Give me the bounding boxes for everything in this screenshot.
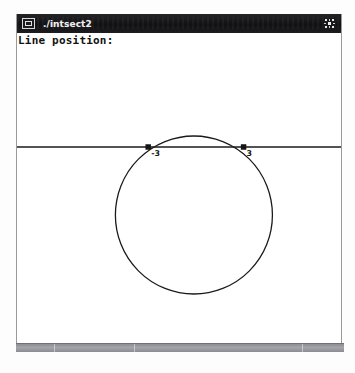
intersection-label-left: -3 [151, 149, 160, 158]
statusbar-divider [54, 344, 55, 352]
geometry-figure: -3 3 [17, 33, 341, 342]
window-title: ./intsect2 [43, 19, 92, 29]
drawing-canvas[interactable]: Line position: -3 3 [17, 33, 341, 342]
window-titlebar[interactable]: ./intsect2 [17, 14, 341, 33]
circle-shape [115, 136, 272, 294]
statusbar-divider [302, 344, 303, 352]
close-icon[interactable] [323, 18, 336, 30]
window-restore-icon[interactable] [22, 18, 35, 29]
intersection-label-right: 3 [247, 149, 253, 158]
intersection-marker-right[interactable] [241, 144, 246, 150]
window-restore-glyph [25, 21, 32, 26]
status-bar [16, 343, 344, 352]
page-background: ./intsect2 Line position: [0, 0, 355, 373]
intersection-marker-left[interactable] [145, 144, 150, 150]
application-window: ./intsect2 Line position: [16, 14, 342, 352]
statusbar-divider [134, 344, 135, 352]
